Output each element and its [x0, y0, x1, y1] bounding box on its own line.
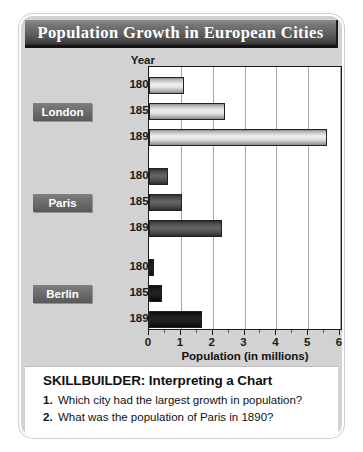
chart-figure: Population Growth in European Cities Yea… [0, 0, 363, 452]
gridline [308, 67, 309, 329]
gridline [245, 67, 246, 329]
page-title: Population Growth in European Cities [37, 23, 323, 43]
skillbuilder-panel: SKILLBUILDER: Interpreting a Chart 1.Whi… [25, 366, 338, 436]
plot-area [148, 66, 342, 330]
x-tick-label: 2 [201, 336, 223, 348]
bar-london-1890 [149, 129, 327, 146]
x-tick-label: 1 [169, 336, 191, 348]
x-minor-tick [196, 330, 197, 333]
x-tick-label: 4 [264, 336, 286, 348]
x-minor-tick [228, 330, 229, 333]
gridline [340, 67, 341, 329]
chart-body: Year 180018501890London180018501890Paris… [25, 52, 338, 364]
question-text: What was the population of Paris in 1890… [58, 409, 273, 426]
skillbuilder-question: 2.What was the population of Paris in 18… [43, 409, 328, 426]
x-tick [180, 330, 181, 335]
chart-title-bar: Population Growth in European Cities [25, 20, 338, 48]
x-tick [244, 330, 245, 335]
year-column-header: Year [111, 54, 155, 66]
bar-berlin-1800 [149, 259, 154, 276]
chart-card: Population Growth in European Cities Yea… [19, 14, 344, 438]
x-minor-tick [291, 330, 292, 333]
x-tick [212, 330, 213, 335]
bar-london-1850 [149, 103, 225, 120]
bar-london-1800 [149, 77, 184, 94]
bar-paris-1890 [149, 220, 222, 237]
x-tick-label: 0 [137, 336, 159, 348]
bar-paris-1850 [149, 194, 182, 211]
x-tick-label: 3 [233, 336, 255, 348]
x-tick [307, 330, 308, 335]
x-minor-tick [164, 330, 165, 333]
question-number: 2. [43, 409, 58, 426]
question-number: 1. [43, 392, 58, 409]
skillbuilder-question: 1.Which city had the largest growth in p… [43, 392, 328, 409]
city-label-london: London [33, 103, 92, 121]
x-tick [275, 330, 276, 335]
skillbuilder-questions: 1.Which city had the largest growth in p… [43, 392, 328, 425]
x-tick [339, 330, 340, 335]
bar-paris-1800 [149, 168, 168, 185]
x-minor-tick [259, 330, 260, 333]
x-tick-label: 6 [328, 336, 344, 348]
x-tick [148, 330, 149, 335]
x-axis: Population (in millions) 0123456 [148, 330, 342, 364]
city-label-paris: Paris [33, 194, 92, 212]
x-minor-tick [323, 330, 324, 333]
question-text: Which city had the largest growth in pop… [58, 392, 302, 409]
bar-berlin-1890 [149, 311, 202, 328]
x-tick-label: 5 [296, 336, 318, 348]
bar-berlin-1850 [149, 285, 162, 302]
x-axis-title: Population (in millions) [148, 350, 342, 362]
gridline [276, 67, 277, 329]
city-label-berlin: Berlin [33, 285, 92, 303]
skillbuilder-heading: SKILLBUILDER: Interpreting a Chart [43, 373, 328, 388]
